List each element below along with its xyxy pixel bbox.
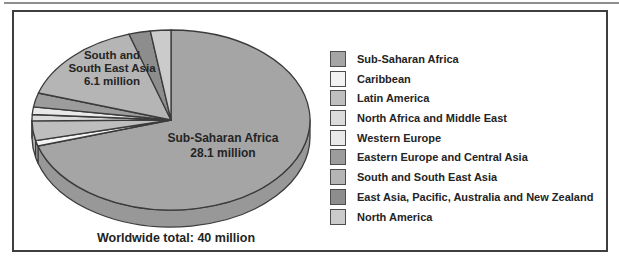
legend-item-north-america: North America xyxy=(330,209,593,225)
legend-swatch xyxy=(330,130,346,146)
figure-hiv-regional-pie-chart: South and South East Asia 6.1 million Su… xyxy=(0,0,619,264)
legend-swatch xyxy=(330,169,346,185)
legend-swatch xyxy=(330,209,346,225)
legend-item-sub-saharan-africa: Sub-Saharan Africa xyxy=(330,51,593,67)
legend-label: Eastern Europe and Central Asia xyxy=(357,151,528,163)
legend-label: Latin America xyxy=(357,92,429,104)
callout-line: 28.1 million xyxy=(150,146,296,161)
slice-callout-sub-saharan-africa: Sub-Saharan Africa 28.1 million xyxy=(150,131,296,161)
legend-label: South and South East Asia xyxy=(357,171,497,183)
legend-item-western-europe: Western Europe xyxy=(330,130,593,146)
legend-item-caribbean: Caribbean xyxy=(330,71,593,87)
legend-label: Caribbean xyxy=(357,73,411,85)
legend-label: North Africa and Middle East xyxy=(357,112,507,124)
callout-line: Sub-Saharan Africa xyxy=(150,131,296,146)
slice-callout-south-east-asia: South and South East Asia 6.1 million xyxy=(50,49,174,88)
callout-line: 6.1 million xyxy=(50,75,174,88)
legend-swatch xyxy=(330,90,346,106)
legend-swatch xyxy=(330,149,346,165)
legend-label: North America xyxy=(357,211,432,223)
legend-item-north-africa-and-middle-east: North Africa and Middle East xyxy=(330,110,593,126)
legend-item-east-asia-pacific-australia-and-new-zealand: East Asia, Pacific, Australia and New Ze… xyxy=(330,189,593,205)
legend-swatch xyxy=(330,71,346,87)
legend-swatch xyxy=(330,189,346,205)
legend-item-south-and-south-east-asia: South and South East Asia xyxy=(330,169,593,185)
legend-item-eastern-europe-and-central-asia: Eastern Europe and Central Asia xyxy=(330,149,593,165)
legend-item-latin-america: Latin America xyxy=(330,90,593,106)
legend-label: Western Europe xyxy=(357,132,441,144)
chart-legend: Sub-Saharan AfricaCaribbeanLatin America… xyxy=(330,51,593,228)
worldwide-total-label: Worldwide total: 40 million xyxy=(0,231,352,245)
callout-line: South and xyxy=(50,49,174,62)
legend-label: Sub-Saharan Africa xyxy=(357,53,459,65)
callout-line: South East Asia xyxy=(50,62,174,75)
legend-label: East Asia, Pacific, Australia and New Ze… xyxy=(357,191,593,203)
legend-swatch xyxy=(330,110,346,126)
legend-swatch xyxy=(330,51,346,67)
